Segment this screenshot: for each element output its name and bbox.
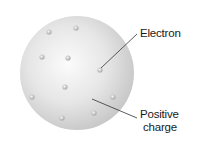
electron-dot xyxy=(29,94,34,99)
electron-dot xyxy=(97,67,102,72)
electron-dot xyxy=(62,84,67,89)
electron-label: Electron xyxy=(140,27,181,40)
positive-charge-label: Positive charge xyxy=(140,108,179,134)
positive-charge-sphere xyxy=(20,16,134,130)
positive-charge-label-line1: Positive xyxy=(140,108,179,121)
positive-charge-label-line2: charge xyxy=(140,121,179,134)
electron-dot xyxy=(46,29,51,34)
electron-dot xyxy=(73,25,78,30)
electron-dot xyxy=(59,115,64,120)
electron-dot xyxy=(91,110,96,115)
electron-dot xyxy=(65,55,70,60)
electron-dot xyxy=(110,94,115,99)
electron-dot xyxy=(39,54,44,59)
